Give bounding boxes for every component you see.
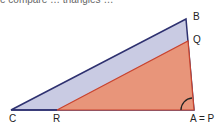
label-q: Q <box>193 34 201 45</box>
label-a-p: A = P <box>190 113 214 124</box>
label-c: C <box>9 113 16 124</box>
triangle-diagram <box>0 0 220 125</box>
label-b: B <box>193 11 200 22</box>
label-r: R <box>53 113 60 124</box>
